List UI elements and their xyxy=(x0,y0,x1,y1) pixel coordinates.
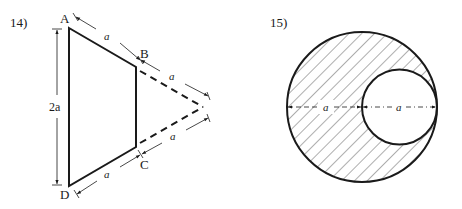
dimension-apex-c-label: a xyxy=(170,130,176,142)
vertex-c-label: C xyxy=(140,157,149,172)
figure-14-number: 14) xyxy=(10,15,27,30)
dimension-cd-label: a xyxy=(104,168,110,180)
dimension-b-apex: a xyxy=(141,60,210,100)
figure-15: 15) a a xyxy=(270,15,437,182)
figure-14: 14) A B C D 2a a xyxy=(10,11,210,202)
figure-15-number: 15) xyxy=(270,15,287,30)
dimension-ab: a xyxy=(73,13,143,64)
dimension-inner-diameter-label: a xyxy=(396,101,402,113)
vertex-b-label: B xyxy=(140,46,149,61)
trapezoid-abcd xyxy=(69,28,136,186)
vertex-a-label: A xyxy=(60,11,70,26)
dimension-b-apex-label: a xyxy=(169,70,175,82)
vertex-d-label: D xyxy=(60,187,69,202)
dimension-left-height: 2a xyxy=(49,29,62,185)
dimension-ab-label: a xyxy=(104,30,110,42)
dimension-2a-label: 2a xyxy=(49,100,61,114)
dimension-apex-c: a xyxy=(138,114,210,158)
diagram-canvas: 14) A B C D 2a a xyxy=(0,0,462,209)
dimension-outer-left-label: a xyxy=(323,101,329,113)
